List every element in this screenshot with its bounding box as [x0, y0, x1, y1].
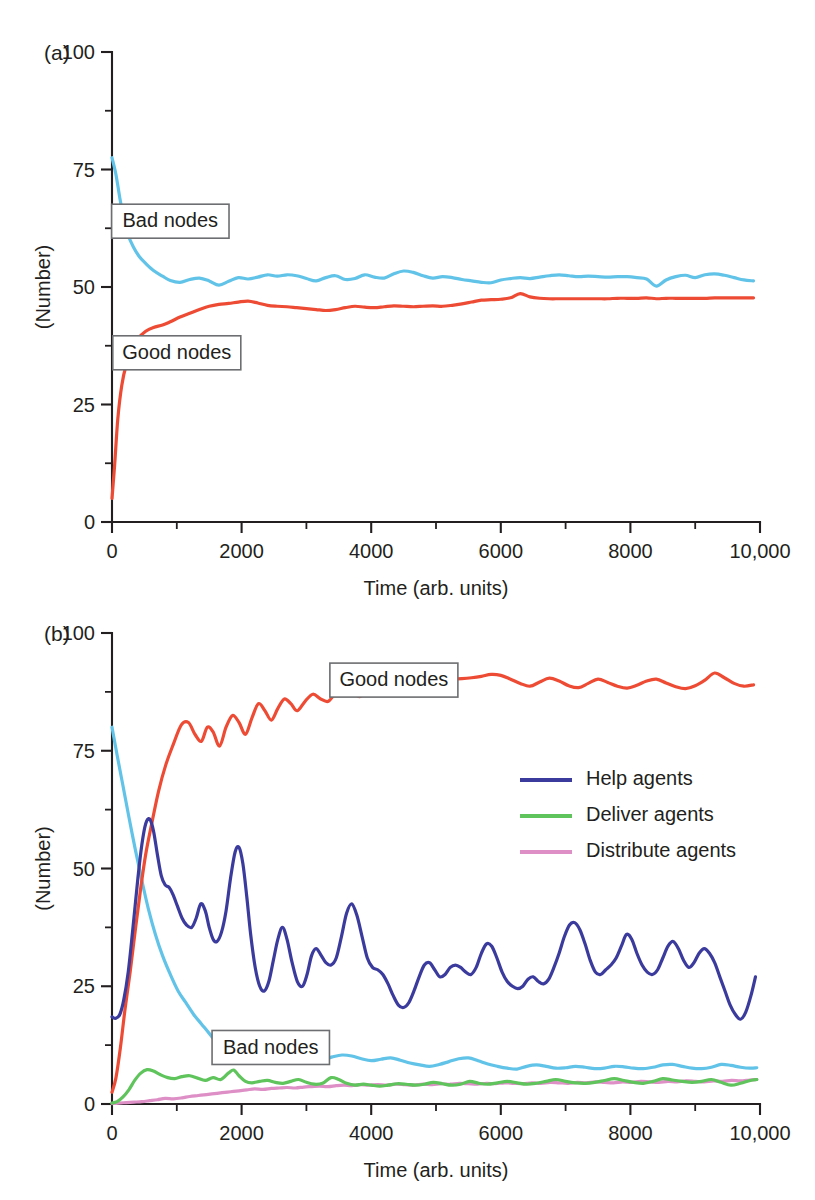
callout-good-nodes: Good nodes: [330, 663, 458, 697]
callout-label: Good nodes: [122, 341, 231, 363]
chart-panel-b: (b)02550751000200040006000800010,000Time…: [0, 600, 815, 1200]
x-tick-label: 8000: [608, 540, 653, 562]
x-tick-label: 2000: [219, 1122, 264, 1144]
series-group: [112, 673, 757, 1104]
x-tick-label: 4000: [349, 1122, 394, 1144]
callout-label: Good nodes: [339, 668, 448, 690]
y-tick-label: 0: [84, 1093, 95, 1115]
series-line-good-nodes: [112, 294, 754, 499]
x-axis-title: Time (arb. units): [364, 577, 509, 599]
y-tick-label: 25: [73, 394, 95, 416]
legend-label-help-agents: Help agents: [586, 767, 693, 789]
x-tick-label: 6000: [479, 1122, 524, 1144]
panel-a-svg: (a)02550751000200040006000800010,000Time…: [0, 0, 815, 600]
x-tick-label: 2000: [219, 540, 264, 562]
y-tick-label: 75: [73, 740, 95, 762]
y-tick-label: 100: [62, 622, 95, 644]
x-tick-label: 10,000: [729, 540, 790, 562]
panel-a-plot-root: (a)02550751000200040006000800010,000Time…: [32, 41, 791, 599]
x-tick-label: 6000: [479, 540, 524, 562]
chart-panel-a: (a)02550751000200040006000800010,000Time…: [0, 0, 815, 600]
x-tick-label: 10,000: [729, 1122, 790, 1144]
panel-b-plot-root: (b)02550751000200040006000800010,000Time…: [32, 622, 791, 1181]
y-axis-title: (Number): [32, 245, 54, 329]
y-tick-label: 100: [62, 41, 95, 63]
figure-container: (a)02550751000200040006000800010,000Time…: [0, 0, 815, 1200]
x-axis-title: Time (arb. units): [364, 1159, 509, 1181]
legend-label-deliver-agents: Deliver agents: [586, 803, 714, 825]
x-tick-label: 4000: [349, 540, 394, 562]
callout-label: Bad nodes: [122, 209, 218, 231]
x-tick-label: 0: [106, 1122, 117, 1144]
y-tick-label: 0: [84, 511, 95, 533]
y-tick-label: 75: [73, 159, 95, 181]
callout-label: Bad nodes: [223, 1036, 319, 1058]
y-tick-label: 25: [73, 975, 95, 997]
callout-bad-nodes: Bad nodes: [212, 1030, 329, 1064]
y-tick-label: 50: [73, 276, 95, 298]
series-line-good-nodes: [112, 673, 754, 1092]
legend-label-distribute-agents: Distribute agents: [586, 839, 736, 861]
callout-good-nodes: Good nodes: [113, 336, 241, 370]
x-tick-label: 8000: [608, 1122, 653, 1144]
y-tick-label: 50: [73, 858, 95, 880]
y-axis-title: (Number): [32, 826, 54, 910]
panel-b-svg: (b)02550751000200040006000800010,000Time…: [0, 600, 815, 1200]
callout-bad-nodes: Bad nodes: [112, 204, 229, 238]
series-line-deliver-agents: [112, 1070, 757, 1104]
chart-legend: Help agentsDeliver agentsDistribute agen…: [520, 767, 736, 861]
x-tick-label: 0: [106, 540, 117, 562]
